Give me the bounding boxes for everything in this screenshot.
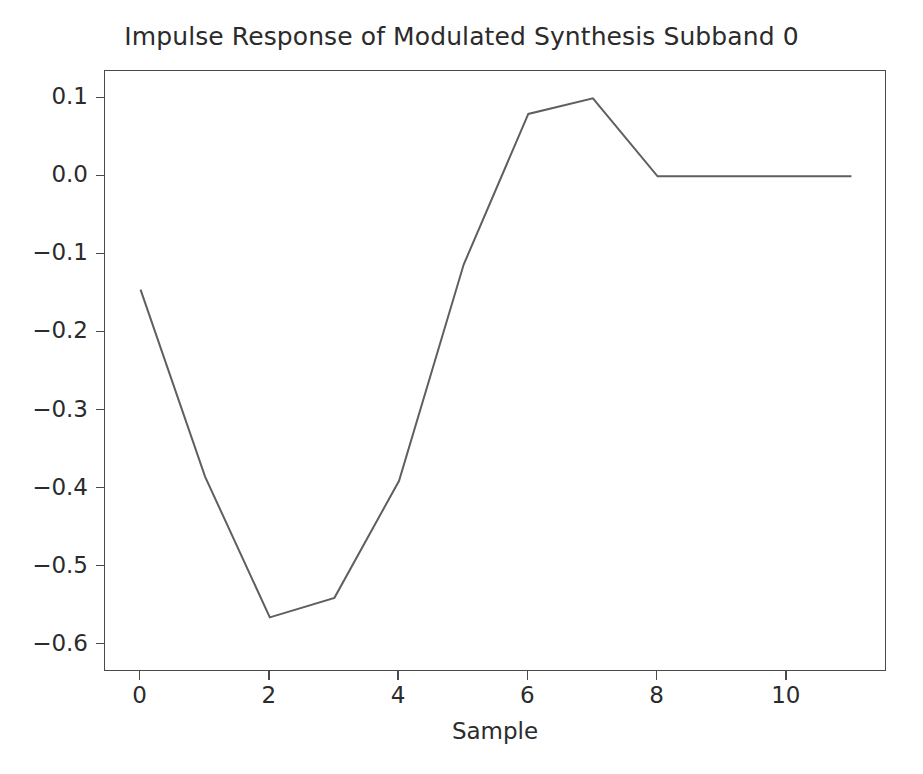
y-tick-label: −0.3 [32,398,88,421]
x-tick-mark [139,671,141,680]
x-tick-mark [397,671,399,680]
x-tick-mark [268,671,270,680]
y-tick-label: −0.4 [32,476,88,499]
y-tick-label: 0.0 [51,163,88,186]
x-tick-mark [656,671,658,680]
x-tick-mark [527,671,529,680]
x-tick-mark [785,671,787,680]
y-tick-label: −0.2 [32,319,88,342]
y-tick-label: −0.5 [32,554,88,577]
x-tick-label: 6 [520,684,535,707]
x-tick-label: 8 [649,684,664,707]
y-tick-label: −0.1 [32,241,88,264]
x-tick-label: 4 [391,684,406,707]
chart-title: Impulse Response of Modulated Synthesis … [0,22,923,51]
chart-figure: Impulse Response of Modulated Synthesis … [0,0,923,774]
y-tick-label: 0.1 [51,85,88,108]
y-tick-label: −0.6 [32,632,88,655]
x-tick-label: 2 [261,684,276,707]
plot-area [104,70,886,671]
x-tick-label: 10 [771,684,800,707]
y-axis-tick-labels: 0.10.0−0.1−0.2−0.3−0.4−0.5−0.6 [0,0,88,774]
impulse-response-line [141,98,852,617]
x-tick-label: 0 [132,684,147,707]
x-axis-label: Sample [104,718,886,744]
data-line-svg [105,71,887,672]
